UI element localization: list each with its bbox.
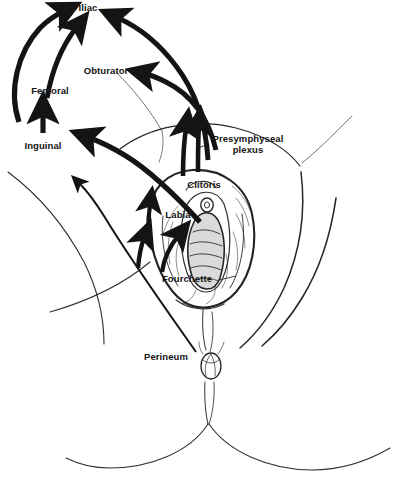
label-femoral: Femoral <box>24 86 76 97</box>
labial-striation-4 <box>233 232 238 270</box>
obturator-guide-line-lower <box>159 131 163 162</box>
label-iliac: Iliac <box>66 3 110 14</box>
natal-cleft-line <box>205 382 208 424</box>
labial-striation-7 <box>176 238 180 276</box>
leader-fourchette <box>219 276 236 280</box>
natal-cleft-line-2 <box>209 382 214 424</box>
label-inguinal: Inguinal <box>17 141 69 152</box>
anal-radiating-2 <box>218 342 224 354</box>
label-perineum: Perineum <box>137 352 195 363</box>
anal-fold-1 <box>205 354 211 376</box>
anal-fold-3 <box>203 360 219 363</box>
arrow-fourchette-to-labia-outer <box>138 238 144 268</box>
anus-outline <box>201 353 221 379</box>
arrow-clitoris-to-plexus-left <box>183 128 186 176</box>
label-presymphyseal-plexus: Presymphyseal plexus <box>206 133 290 155</box>
label-obturator: Obturator <box>77 66 135 77</box>
perineal-raphe-line-2 <box>210 312 213 352</box>
perineal-raphe-line <box>203 310 206 350</box>
left-thigh-outline <box>8 172 104 344</box>
lymphatic-drainage-diagram: Iliac Obturator Femoral Inguinal Presymp… <box>0 0 407 482</box>
arrow-labia-upward <box>148 204 150 232</box>
right-groin-crease <box>240 172 303 348</box>
anal-fold-2 <box>211 354 215 376</box>
urethral-meatus-inner <box>204 202 209 208</box>
left-buttock-outline <box>66 424 208 468</box>
obturator-guide-line <box>116 72 162 131</box>
anal-radiating-1 <box>199 342 203 354</box>
label-clitoris: Clitoris <box>182 180 226 191</box>
urethral-meatus <box>201 198 213 212</box>
label-labia: Labia <box>161 210 195 221</box>
arrow-clitoris-to-plexus-right <box>198 126 199 172</box>
pubic-tubercle-guide-line <box>302 116 352 163</box>
right-thigh-outline <box>262 198 336 346</box>
right-buttock-outline <box>209 424 390 470</box>
anatomy-illustration <box>0 0 407 482</box>
label-fourchette: Fourchette <box>156 274 218 285</box>
